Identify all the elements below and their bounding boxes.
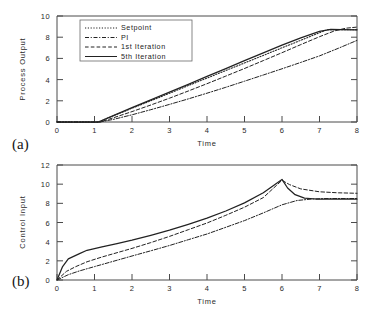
- chart-b-xtick-5: 5: [242, 284, 247, 293]
- chart-b-ylabel: Control Input: [18, 195, 27, 248]
- chart-a-ytick-8: 8: [45, 33, 50, 42]
- legend-label-iteration1: 1st Iteration: [121, 42, 166, 51]
- chart-a-ytick-4: 4: [45, 76, 50, 85]
- chart-b-axes: [57, 165, 357, 280]
- chart-a-ytick-2: 2: [45, 97, 50, 106]
- chart-b-svg: 0 2 4 6 8 10 12 0 1 2 3 4: [0, 155, 382, 319]
- chart-b-ytick-12: 12: [41, 161, 50, 170]
- chart-a-ytick-6: 6: [45, 54, 50, 63]
- chart-b-x-ticks: [57, 274, 357, 280]
- chart-b-panel-tag: (b): [12, 273, 30, 290]
- chart-a-xtick-6: 6: [280, 126, 285, 135]
- legend-label-setpoint: Setpoint: [121, 23, 152, 32]
- chart-b-ytick-4: 4: [45, 238, 50, 247]
- chart-b-xtick-0: 0: [55, 284, 60, 293]
- chart-a-xtick-3: 3: [167, 126, 172, 135]
- chart-a-xtick-8: 8: [355, 126, 360, 135]
- chart-a-xtick-7: 7: [317, 126, 322, 135]
- chart-b-xtick-8: 8: [355, 284, 360, 293]
- chart-a-xlabel: Time: [197, 139, 217, 148]
- chart-b-xtick-2: 2: [130, 284, 135, 293]
- chart-a-xtick-0: 0: [55, 126, 60, 135]
- chart-b-series-pi: [57, 199, 357, 281]
- chart-a-panel-tag: (a): [12, 136, 29, 153]
- chart-b-series-iteration5: [57, 179, 357, 280]
- chart-b-ytick-0: 0: [45, 276, 50, 285]
- chart-a-xtick-1: 1: [92, 126, 97, 135]
- chart-a-xtick-5: 5: [242, 126, 247, 135]
- chart-b-xtick-7: 7: [317, 284, 322, 293]
- chart-a-xtick-2: 2: [130, 126, 135, 135]
- chart-b-xtick-4: 4: [205, 284, 210, 293]
- chart-panel-a: 0 2 4 6 8 10 0 1 2 3 4 5: [0, 0, 382, 158]
- chart-b-xtick-3: 3: [167, 284, 172, 293]
- chart-b-xlabel: Time: [197, 297, 217, 306]
- legend-label-iteration5: 5th Iteration: [121, 52, 166, 61]
- chart-a-legend: Setpoint PI 1st Iteration 5th Iteration: [80, 20, 192, 61]
- chart-b-xtick-1: 1: [92, 284, 97, 293]
- chart-b-ytick-2: 2: [45, 257, 50, 266]
- chart-b-ytick-6: 6: [45, 219, 50, 228]
- chart-a-ytick-0: 0: [45, 118, 50, 127]
- chart-b-series-group: [57, 179, 357, 280]
- chart-panel-b: 0 2 4 6 8 10 12 0 1 2 3 4: [0, 155, 382, 319]
- chart-b-series-iteration1: [57, 180, 357, 280]
- chart-a-ylabel: Process Output: [18, 37, 27, 100]
- chart-a-xtick-4: 4: [205, 126, 210, 135]
- legend-label-pi: PI: [121, 33, 129, 42]
- chart-b-ytick-10: 10: [41, 180, 50, 189]
- chart-b-xtick-6: 6: [280, 284, 285, 293]
- chart-a-ytick-10: 10: [41, 12, 50, 21]
- figure-container: 0 2 4 6 8 10 0 1 2 3 4 5: [0, 0, 382, 319]
- chart-b-ytick-8: 8: [45, 199, 50, 208]
- chart-a-svg: 0 2 4 6 8 10 0 1 2 3 4 5: [0, 0, 382, 158]
- chart-b-y-ticks: [57, 165, 357, 280]
